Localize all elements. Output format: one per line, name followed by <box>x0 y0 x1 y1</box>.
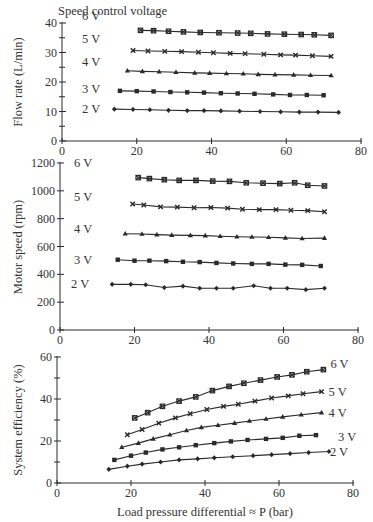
x-tick-label: 40 <box>203 333 215 347</box>
series-label: 3 V <box>74 253 92 267</box>
y-tick-label: 0 <box>49 323 55 337</box>
x-tick-label: 40 <box>206 144 218 158</box>
series-label: 4 V <box>82 55 100 69</box>
x-tick-label: 80 <box>352 333 364 347</box>
series-6v: 6 V <box>74 156 327 189</box>
x-tick-label: 20 <box>131 144 143 158</box>
series-label: 3 V <box>338 430 356 444</box>
x-tick-label: 20 <box>129 333 141 347</box>
series-4v: 4 V <box>82 55 334 78</box>
series-label: 5 V <box>82 32 100 46</box>
series-5v: 5 V <box>82 32 333 58</box>
y-tick-label: 40 <box>45 16 57 30</box>
system-efficiency-panel: 0204060800204060System efficiency (%)6 V… <box>11 350 359 500</box>
y-tick-label: 800 <box>37 212 55 226</box>
x-tick-label: 60 <box>273 486 285 500</box>
figure-three-panel-chart: Speed control voltage 020406080010203040… <box>0 0 373 522</box>
series-label: 5 V <box>74 190 92 204</box>
y-tick-label: 0 <box>46 476 52 490</box>
x-tick-label: 0 <box>57 333 63 347</box>
y-tick-label: 400 <box>37 267 55 281</box>
y-axis-label: Motor speed (rpm) <box>11 200 25 294</box>
y-tick-label: 10 <box>45 105 57 119</box>
y-tick-label: 30 <box>45 46 57 60</box>
series-label: 2 V <box>82 102 100 116</box>
x-tick-label: 60 <box>280 144 292 158</box>
motor-speed-panel: 020406080020040060080010001200Motor spee… <box>11 156 364 347</box>
y-tick-label: 200 <box>37 295 55 309</box>
series-label: 2 V <box>330 445 348 459</box>
series-2v: 2 V <box>71 277 327 292</box>
y-tick-label: 20 <box>45 75 57 89</box>
y-axis-label: Flow rate (L/min) <box>11 37 25 127</box>
y-tick-label: 60 <box>40 350 52 364</box>
y-tick-label: 20 <box>40 434 52 448</box>
x-tick-label: 80 <box>347 486 359 500</box>
series-2v: 2 V <box>82 102 341 116</box>
series-label: 5 V <box>329 385 347 399</box>
series-label: 6 V <box>82 9 100 23</box>
x-tick-label: 0 <box>59 144 65 158</box>
y-tick-label: 0 <box>51 134 57 148</box>
series-label: 3 V <box>82 82 100 96</box>
x-axis-label: Load pressure differential ≈ P (bar) <box>117 505 293 519</box>
series-6v: 6 V <box>133 357 349 421</box>
figure-svg: Speed control voltage 020406080010203040… <box>0 0 373 522</box>
series-2v: 2 V <box>106 445 348 472</box>
series-label: 4 V <box>74 222 92 236</box>
y-tick-label: 1200 <box>31 156 55 170</box>
x-tick-label: 40 <box>199 486 211 500</box>
series-3v: 3 V <box>82 82 326 98</box>
speed-control-voltage-label: Speed control voltage <box>58 4 167 18</box>
series-4v: 4 V <box>74 222 327 241</box>
x-tick-label: 60 <box>278 333 290 347</box>
series-label: 2 V <box>71 277 89 291</box>
series-3v: 3 V <box>74 253 323 268</box>
y-tick-label: 40 <box>40 392 52 406</box>
x-tick-label: 20 <box>125 486 137 500</box>
x-tick-label: 0 <box>54 486 60 500</box>
y-tick-label: 600 <box>37 240 55 254</box>
series-label: 6 V <box>330 357 348 371</box>
series-label: 4 V <box>329 406 347 420</box>
series-5v: 5 V <box>74 190 327 214</box>
x-tick-label: 80 <box>355 144 367 158</box>
flow-rate-panel: 020406080010203040Flow rate (L/min)6 V5 … <box>11 9 367 158</box>
y-tick-label: 1000 <box>31 184 55 198</box>
series-5v: 5 V <box>125 385 347 437</box>
series-label: 6 V <box>74 156 92 170</box>
y-axis-label: System efficiency (%) <box>11 364 25 476</box>
